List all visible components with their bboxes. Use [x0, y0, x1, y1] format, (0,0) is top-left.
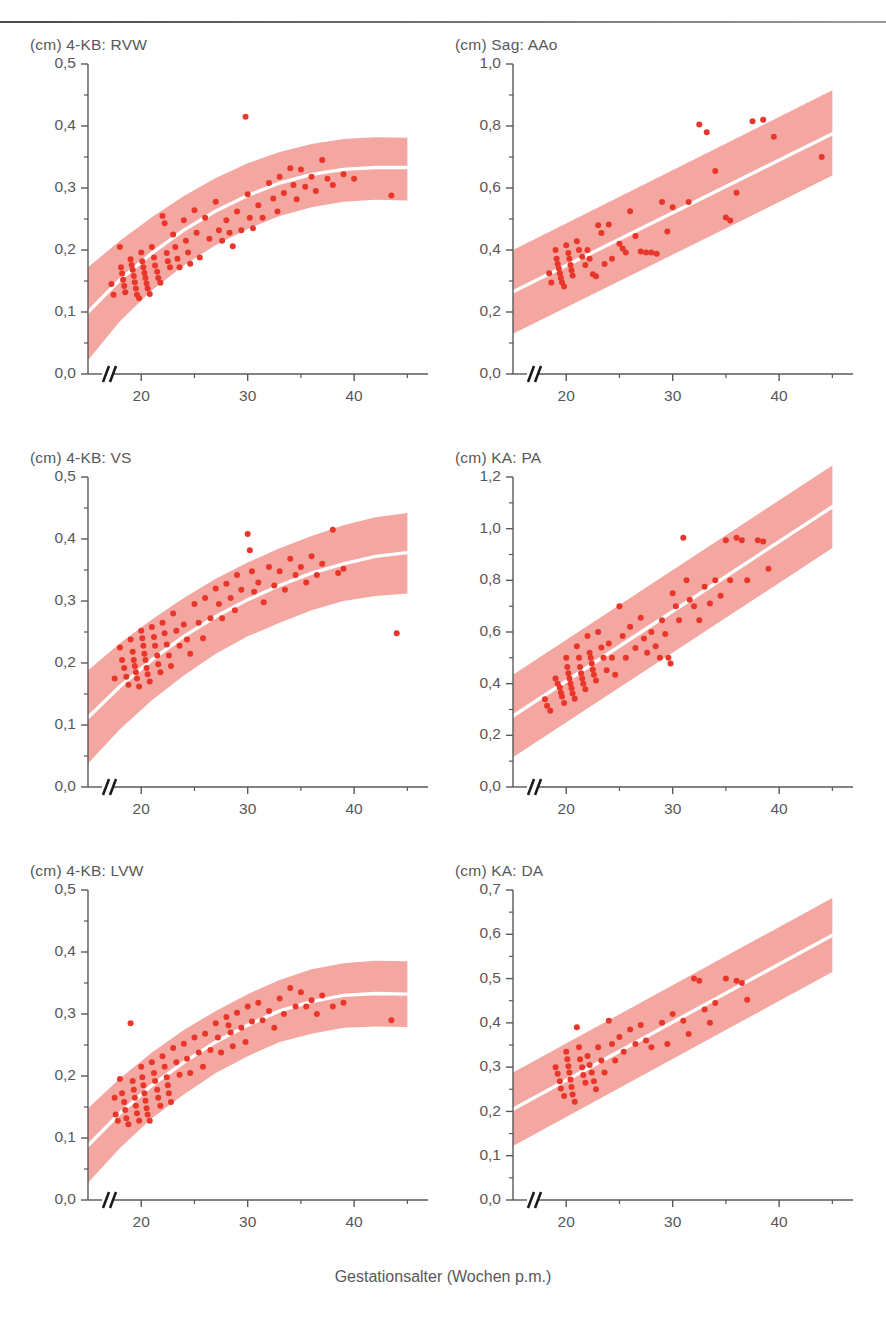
y-tick-label: 0,6 [479, 178, 501, 195]
axis-break-icon [528, 1192, 541, 1208]
data-point [587, 1062, 593, 1068]
data-point [616, 1034, 622, 1040]
data-point [120, 277, 126, 283]
data-point [309, 174, 315, 180]
data-point [234, 209, 240, 215]
data-point [266, 1008, 272, 1014]
data-point [598, 645, 604, 651]
x-tick-label: 30 [664, 800, 682, 817]
data-point [696, 121, 702, 127]
data-point [152, 643, 158, 649]
data-point [129, 262, 135, 268]
data-point [686, 199, 692, 205]
data-point [330, 527, 336, 533]
data-point [238, 587, 244, 593]
data-point [577, 664, 583, 670]
data-point [576, 1044, 582, 1050]
data-point [303, 1004, 309, 1010]
data-point [140, 1082, 146, 1088]
y-tick-label: 0,2 [54, 240, 76, 257]
data-point [139, 635, 145, 641]
data-point [131, 273, 137, 279]
data-point [290, 182, 296, 188]
x-tick-label: 40 [771, 387, 789, 404]
median-line [513, 507, 832, 716]
data-point [132, 1095, 138, 1101]
data-point [250, 225, 256, 231]
data-point [616, 603, 622, 609]
data-point [132, 663, 138, 669]
data-point [128, 1020, 134, 1026]
chart-svg-2: 0,00,10,20,30,40,5203040 [30, 467, 436, 833]
data-point [140, 264, 146, 270]
data-point [566, 1069, 572, 1075]
plot-1: 0,00,20,40,60,81,0203040 [455, 54, 861, 420]
data-point [707, 601, 713, 607]
data-point [632, 233, 638, 239]
data-point [139, 1074, 145, 1080]
data-point [648, 629, 654, 635]
data-point [588, 655, 594, 661]
data-point [580, 1072, 586, 1078]
data-point [547, 708, 553, 714]
data-point [141, 651, 147, 657]
data-point [319, 157, 325, 163]
data-point [739, 980, 745, 986]
data-point [569, 685, 575, 691]
data-point [177, 264, 183, 270]
y-tick-label: 0,5 [54, 54, 76, 71]
data-point [207, 1047, 213, 1053]
data-point [712, 168, 718, 174]
data-point [744, 997, 750, 1003]
data-point [579, 676, 585, 682]
data-point [157, 1103, 163, 1109]
data-point [151, 254, 157, 260]
data-point [184, 1056, 190, 1062]
data-point [621, 1049, 627, 1055]
y-tick-label: 0,0 [54, 1190, 76, 1207]
data-point [739, 537, 745, 543]
data-point [600, 655, 606, 661]
data-point [643, 1038, 649, 1044]
x-tick-label: 30 [239, 387, 257, 404]
data-point [557, 1078, 563, 1084]
data-point [194, 230, 200, 236]
data-point [582, 1080, 588, 1086]
data-point [234, 572, 240, 578]
data-point [149, 624, 155, 630]
data-point [612, 672, 618, 678]
data-point [664, 1041, 670, 1047]
data-point [196, 620, 202, 626]
data-point [255, 579, 261, 585]
data-point [670, 204, 676, 210]
data-point [277, 996, 283, 1002]
y-tick-label: 0,8 [479, 116, 501, 133]
data-point [565, 1063, 571, 1069]
y-tick-label: 0,2 [479, 725, 501, 742]
data-point [147, 291, 153, 297]
data-point [184, 636, 190, 642]
data-point [152, 263, 158, 269]
data-point [723, 976, 729, 982]
data-point [219, 615, 225, 621]
data-point [147, 679, 153, 685]
data-point [154, 269, 160, 275]
chart-svg-4: 0,00,10,20,30,40,5203040 [30, 880, 436, 1246]
data-point [155, 1095, 161, 1101]
data-point [149, 1059, 155, 1065]
data-point [138, 249, 144, 255]
data-point [293, 1004, 299, 1010]
data-point [684, 577, 690, 583]
x-tick-label: 20 [133, 800, 151, 817]
data-point [154, 653, 160, 659]
data-point [157, 669, 163, 675]
data-point [191, 601, 197, 607]
data-point [591, 1078, 597, 1084]
data-point [227, 230, 233, 236]
data-point [609, 256, 615, 262]
data-point [567, 1077, 573, 1083]
y-tick-label: 0,4 [479, 240, 501, 257]
data-point [216, 601, 222, 607]
x-tick-label: 40 [771, 800, 789, 817]
data-point [673, 603, 679, 609]
